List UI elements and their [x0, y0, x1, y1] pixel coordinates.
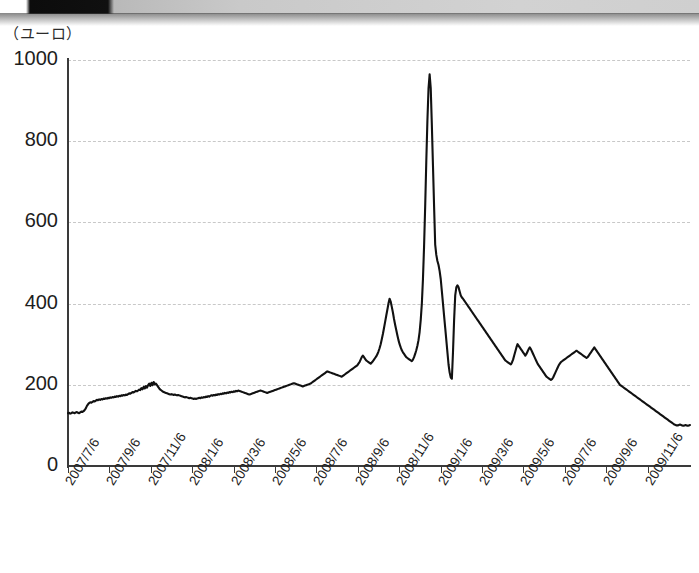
- price-line-path: [68, 74, 690, 426]
- price-line-series: [0, 0, 699, 573]
- chart-page: （ユーロ） 02004006008001000 2007/7/62007/9/6…: [0, 0, 699, 573]
